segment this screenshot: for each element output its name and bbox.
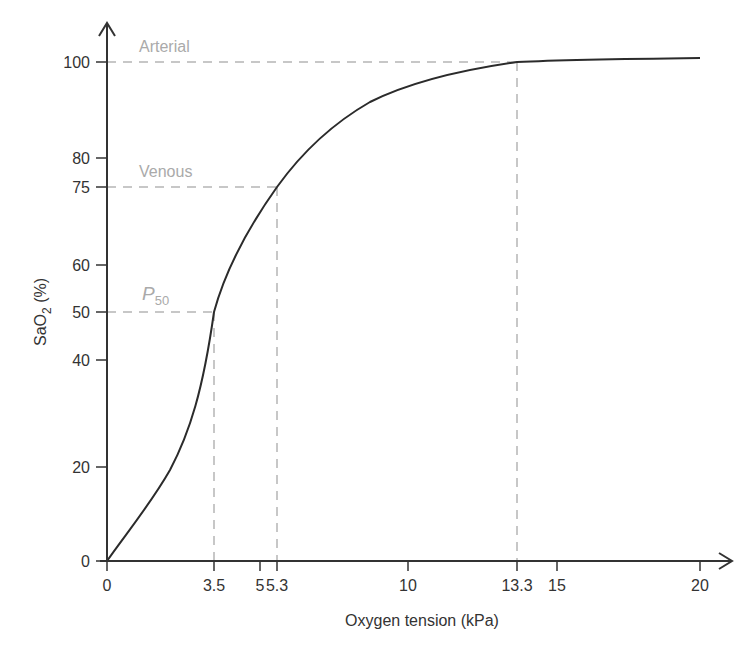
p50-label-sub: 50 <box>155 293 169 308</box>
oxygen-dissociation-chart: 03.555.31013.31520 0204050607580100 Arte… <box>0 0 753 656</box>
x-tick-label: 20 <box>691 577 709 594</box>
arterial-label: Arterial <box>139 38 190 55</box>
y-tick-label: 0 <box>81 553 90 570</box>
y-axis-title-main: SaO <box>32 314 49 346</box>
y-axis-ticks: 0204050607580100 <box>63 54 107 570</box>
y-tick-label: 60 <box>72 257 90 274</box>
dissociation-curve <box>107 58 700 561</box>
y-tick-label: 100 <box>63 54 90 71</box>
axes <box>99 23 732 569</box>
venous-label: Venous <box>139 163 192 180</box>
guide-lines <box>107 62 517 561</box>
x-tick-label: 15 <box>548 577 566 594</box>
y-tick-label: 20 <box>72 459 90 476</box>
x-tick-label: 3.5 <box>203 577 225 594</box>
x-tick-label: 13.3 <box>501 577 532 594</box>
x-tick-label: 5 <box>256 577 265 594</box>
x-tick-label: 5.3 <box>266 577 288 594</box>
y-tick-label: 50 <box>72 304 90 321</box>
x-tick-label: 10 <box>399 577 417 594</box>
y-tick-label: 80 <box>72 150 90 167</box>
p50-label: P50 <box>142 283 169 308</box>
x-axis-title: Oxygen tension (kPa) <box>345 612 499 629</box>
y-tick-label: 75 <box>72 179 90 196</box>
y-axis-title: SaO2 (%) <box>32 278 54 346</box>
y-tick-label: 40 <box>72 352 90 369</box>
y-axis-title-suffix: (%) <box>32 278 49 307</box>
x-tick-label: 0 <box>103 577 112 594</box>
x-axis-ticks: 03.555.31013.31520 <box>103 561 709 594</box>
p50-label-main: P <box>142 283 155 304</box>
